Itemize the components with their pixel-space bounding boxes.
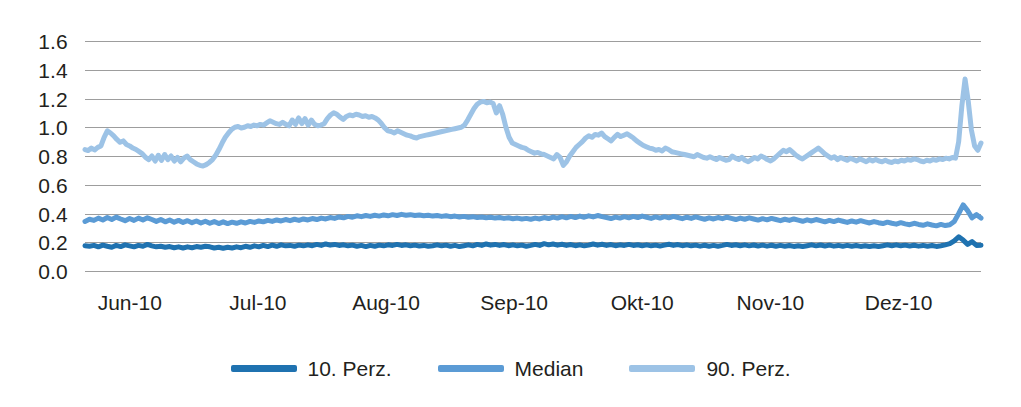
legend-swatch: [629, 365, 695, 372]
x-tick-label: Nov-10: [737, 292, 805, 313]
x-tick-label: Okt-10: [611, 292, 674, 313]
series-line: [85, 237, 981, 249]
legend-label: 90. Perz.: [706, 358, 790, 379]
legend-item[interactable]: 90. Perz.: [629, 358, 790, 379]
x-axis: Jun-10Jul-10Aug-10Sep-10Okt-10Nov-10Dez-…: [85, 292, 981, 332]
y-tick-label: 1.0: [38, 117, 68, 138]
legend-label: Median: [515, 358, 584, 379]
y-tick-label: 0.8: [38, 146, 68, 167]
chart-legend: 10. Perz.Median90. Perz.: [0, 358, 1021, 379]
legend-label: 10. Perz.: [308, 358, 392, 379]
x-tick-label: Dez-10: [865, 292, 933, 313]
y-tick-label: 0.6: [38, 174, 68, 195]
x-tick-label: Jul-10: [229, 292, 286, 313]
y-tick-label: 1.6: [38, 31, 68, 52]
series-layer: [81, 11, 991, 311]
series-line: [85, 205, 981, 226]
x-tick-label: Sep-10: [480, 292, 548, 313]
y-tick-label: 0.4: [38, 203, 68, 224]
y-tick-label: 1.2: [38, 88, 68, 109]
legend-swatch: [438, 365, 504, 372]
y-axis: 1.61.41.21.00.80.60.40.20.0: [0, 0, 78, 330]
plot-area: [85, 41, 981, 271]
x-tick-label: Jun-10: [98, 292, 162, 313]
x-tick-label: Aug-10: [352, 292, 420, 313]
series-line: [85, 79, 981, 166]
y-tick-label: 1.4: [38, 59, 68, 80]
y-tick-label: 0.2: [38, 232, 68, 253]
legend-item[interactable]: Median: [438, 358, 584, 379]
legend-swatch: [231, 365, 297, 372]
y-tick-label: 0.0: [38, 261, 68, 282]
percentile-line-chart: 1.61.41.21.00.80.60.40.20.0 Jun-10Jul-10…: [0, 0, 1021, 407]
legend-item[interactable]: 10. Perz.: [231, 358, 392, 379]
